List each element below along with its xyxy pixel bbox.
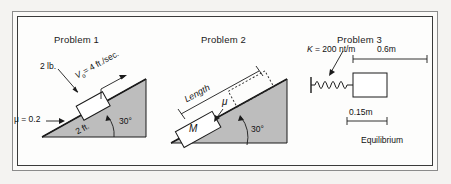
problem-1-panel: Problem 1 — [18, 17, 163, 167]
problem-1-weight-label: 2 lb. — [40, 61, 56, 71]
weight-arrow-head-1 — [73, 87, 79, 94]
problem-3-distance-bottom-label: 0.15m — [349, 107, 373, 117]
problem-2-friction-label: μ — [222, 96, 227, 107]
problem-3-spring-constant-label: K = 200 nt/m — [307, 44, 355, 54]
problem-1-diagram — [18, 17, 163, 167]
problem-1-angle-label: 30° — [119, 116, 132, 126]
problem-3-distance-top-label: 0.6m — [377, 44, 396, 54]
spring-constant-symbol: K — [307, 44, 313, 54]
problem-2-panel: Problem 2 — [163, 17, 303, 167]
problem-3-panel: Problem 3 — [303, 17, 434, 167]
problem-2-mass-label: M — [189, 123, 197, 134]
mass-block-3 — [353, 73, 387, 97]
problem-3-equilibrium-label: Equilibrium — [361, 135, 403, 145]
spring-coil-3 — [315, 82, 347, 89]
friction-arrow-head-1 — [59, 118, 65, 124]
dimension-0-6m-3 — [353, 55, 427, 63]
problem-2-diagram — [163, 17, 303, 167]
problem-2-angle-label: 30° — [251, 124, 264, 134]
dimension-0-15m-3 — [347, 117, 387, 125]
spring-constant-value: = 200 nt/m — [315, 44, 355, 54]
figure-inner-border: Problem 1 — [17, 16, 433, 166]
physics-figure: Problem 1 — [0, 0, 451, 184]
problem-1-friction-label: μ = 0.2 — [14, 114, 40, 124]
